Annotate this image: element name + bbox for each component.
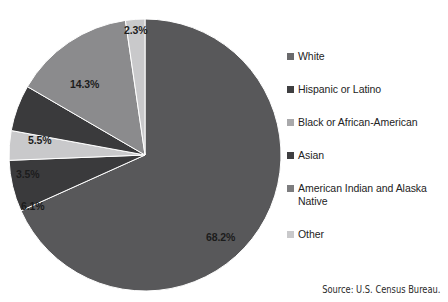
legend-item-label: Hispanic or Latino	[298, 83, 381, 96]
legend-item-white[interactable]: White	[287, 50, 445, 63]
pie-chart-figure: 68.2% 6.1% 3.5% 5.5% 14.3% 2.3% White Hi…	[0, 0, 448, 302]
legend-item-label: Black or African-American	[298, 116, 418, 129]
legend-item-label: Asian	[298, 149, 324, 162]
chart-legend: White Hispanic or Latino Black or Africa…	[287, 50, 445, 240]
legend-swatch-icon	[287, 185, 294, 192]
legend-item-label: White	[298, 50, 325, 63]
pie-chart-svg	[8, 18, 282, 292]
slice-label-other: 2.3%	[124, 24, 148, 36]
pie-chart-area: 68.2% 6.1% 3.5% 5.5% 14.3% 2.3%	[8, 18, 282, 292]
legend-item-asian[interactable]: Asian	[287, 149, 445, 162]
source-attribution: Source: U.S. Census Bureau.	[322, 283, 440, 295]
slice-label-black: 14.3%	[70, 78, 99, 90]
legend-swatch-icon	[287, 231, 294, 238]
legend-item-black-or-african-american[interactable]: Black or African-American	[287, 116, 445, 129]
slice-label-asian: 5.5%	[28, 134, 52, 146]
legend-item-other[interactable]: Other	[287, 228, 445, 241]
pie-slices-group	[9, 19, 281, 291]
legend-item-label: Other	[298, 228, 324, 241]
legend-item-american-indian-and-alaska-native[interactable]: American Indian and Alaska Native	[287, 182, 445, 207]
legend-swatch-icon	[287, 152, 294, 159]
legend-swatch-icon	[287, 86, 294, 93]
slice-label-white: 68.2%	[206, 231, 235, 243]
slice-label-hispanic: 6.1%	[21, 200, 45, 212]
legend-item-label: American Indian and Alaska Native	[298, 182, 445, 207]
legend-swatch-icon	[287, 119, 294, 126]
slice-label-american-indian: 3.5%	[16, 168, 40, 180]
legend-item-hispanic-or-latino[interactable]: Hispanic or Latino	[287, 83, 445, 96]
legend-swatch-icon	[287, 53, 294, 60]
